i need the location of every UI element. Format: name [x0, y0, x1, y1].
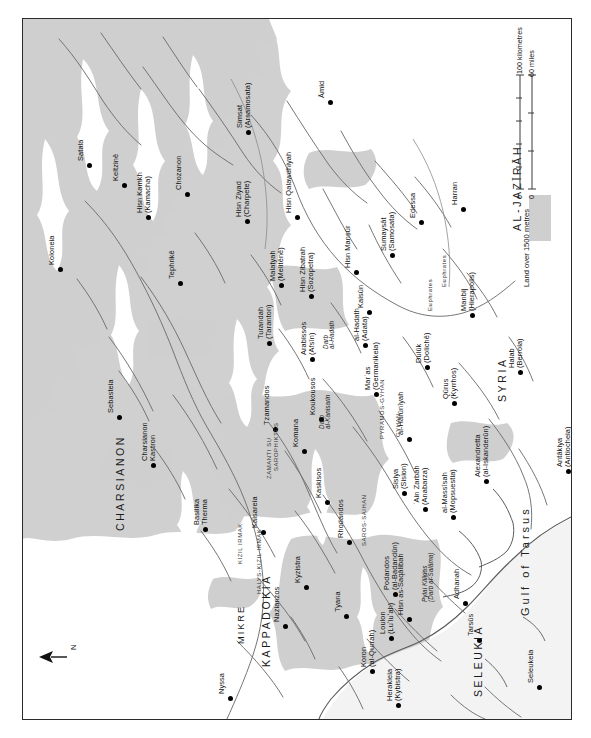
settlement-label: Sumaysāt(Samosata): [380, 212, 396, 251]
settlement-label: Koukousos: [309, 378, 317, 415]
settlement-label: Arabissos(Afsīn): [300, 322, 316, 355]
region-label: CHARSIANON: [115, 435, 126, 531]
settlement-label: Qūrus(Kyrrhos): [442, 368, 458, 399]
legend-land-label: Land over 1500 metres: [522, 209, 531, 287]
region-label: KAPPADOKIA: [261, 574, 272, 667]
settlement-label: Hisn Kamkh(Kamacha): [136, 172, 152, 213]
settlement-dot: [279, 283, 284, 288]
settlement-dot: [347, 540, 352, 545]
settlement-dot: [470, 313, 475, 318]
settlement-dot: [370, 669, 375, 674]
settlement-label: Keltzinē: [112, 154, 120, 181]
river-label: SAROS-SAIHAN: [361, 494, 367, 546]
settlement-label: Harran: [451, 182, 459, 205]
route-label: Darbal-Hadath: [323, 321, 336, 349]
settlement-dot: [87, 163, 92, 168]
settlement-dot: [463, 601, 468, 606]
settlement-dot: [178, 281, 183, 286]
settlement-dot: [344, 614, 349, 619]
settlement-dot: [419, 220, 424, 225]
terrain-layer: [23, 19, 571, 719]
settlement-dot: [58, 267, 63, 272]
settlement-label: Kyzistra: [294, 556, 302, 583]
map-frame: SatalaKoloneiaKeltzinēHisn Kamkh(Kamacha…: [0, 0, 591, 738]
settlement-dot: [146, 215, 151, 220]
river-label: SAROPHIKTES: [273, 423, 279, 472]
settlement-dot: [295, 215, 300, 220]
settlement-dot: [228, 696, 233, 701]
settlement-dot: [325, 500, 330, 505]
route-label: Darbal-Kanisarin: [319, 395, 332, 429]
settlement-dot: [484, 479, 489, 484]
settlement-dot: [407, 617, 412, 622]
settlement-label: Sisiya(Sision): [392, 463, 408, 489]
settlement-label: Halab(Berroia): [508, 338, 524, 368]
water-body-label: Gulf of Tarsus: [520, 506, 531, 616]
settlement-dot: [537, 685, 542, 690]
settlement-dot: [245, 219, 250, 224]
settlement-label: Edessa: [409, 193, 417, 218]
settlement-dot: [518, 370, 523, 375]
settlement-dot: [203, 527, 208, 532]
settlement-label: Kaskisos: [315, 468, 323, 498]
map-plate: SatalaKoloneiaKeltzinēHisn Kamkh(Kamacha…: [22, 18, 572, 720]
settlement-label: Manbij(Hierapolis): [460, 272, 476, 311]
settlement-dot: [374, 392, 379, 397]
settlement-label: Hisn Zibatrah(Sozopetra): [299, 247, 315, 292]
settlement-label: Komana: [292, 419, 300, 447]
settlement-label: CharsianonKastron: [141, 422, 157, 461]
legend-swatch-highland: [529, 195, 551, 241]
settlement-dot: [354, 270, 359, 275]
north-arrow-label: N: [69, 645, 78, 650]
settlement-label: Dulūk(Dolichē): [415, 333, 431, 363]
settlement-label: Antākiya(Antiocheia): [556, 426, 572, 467]
settlement-label: Tzamandos: [263, 385, 271, 425]
river-label: Euphrates: [441, 255, 447, 287]
settlement-label: Āmid: [318, 81, 326, 98]
settlement-dot: [389, 636, 394, 641]
scale-km-zero: 0: [515, 195, 524, 199]
scale-mi-zero: 0: [527, 195, 536, 199]
settlement-label: Nyssa: [218, 673, 226, 694]
settlement-dot: [566, 469, 571, 474]
settlement-label: Malaṭyah(Melitēnē): [269, 247, 285, 281]
settlement-label: ʿAin Zarbah(Anabarza): [413, 465, 429, 505]
region-label: SELEUKIA: [473, 625, 484, 697]
settlement-label: Kaisūn: [357, 285, 365, 308]
settlement-label: Seleukeia: [527, 650, 535, 683]
settlement-dot: [461, 207, 466, 212]
settlement-label: Hisn Ziyad(Charpete): [235, 181, 251, 217]
settlement-label: Chozanon: [175, 156, 183, 191]
settlement-label: Hisn Qalawdhiyah: [285, 152, 293, 213]
settlement-label: Kaisareia: [251, 496, 259, 528]
settlement-label: Turandah(Taranton): [257, 304, 273, 339]
settlement-dot: [328, 100, 333, 105]
settlement-label: Simsat(Arsamosata): [236, 82, 252, 128]
settlement-label: Nazianzos: [273, 587, 281, 622]
settlement-label: Koloneia: [48, 235, 56, 265]
settlement-label: Koron(al-Qurrah): [360, 630, 376, 667]
settlement-dot: [122, 183, 127, 188]
river-label: KIZIL IRMAK: [237, 523, 243, 564]
map-canvas: SatalaKoloneiaKeltzinēHisn Kamkh(Kamacha…: [23, 19, 571, 719]
settlement-label: al-Hadath(Adata): [353, 308, 369, 341]
settlement-dot: [452, 401, 457, 406]
scale-mi-label: 60 miles: [527, 50, 536, 77]
settlement-label: Satala: [77, 139, 85, 161]
scale-km-label: 100 kilometres: [515, 27, 524, 74]
settlement-dot: [302, 449, 307, 454]
settlement-dot: [304, 585, 309, 590]
settlement-dot: [283, 624, 288, 629]
settlement-dot: [407, 437, 412, 442]
settlement-dot: [451, 515, 456, 520]
settlement-label: Tyana: [334, 591, 342, 612]
settlement-dot: [246, 130, 251, 135]
settlement-label: Loulon(Luʻluʻah): [379, 603, 395, 634]
settlement-label: Adhanah: [453, 569, 461, 599]
region-label: SYRIA: [497, 357, 508, 402]
region-label: MIKRE: [237, 605, 246, 644]
settlement-label: Hisn as-Saqālibah: [397, 553, 405, 615]
settlement-dot: [402, 491, 407, 496]
river-label: GYHAN: [395, 413, 401, 437]
settlement-label: BasilikaTherma: [193, 499, 209, 525]
